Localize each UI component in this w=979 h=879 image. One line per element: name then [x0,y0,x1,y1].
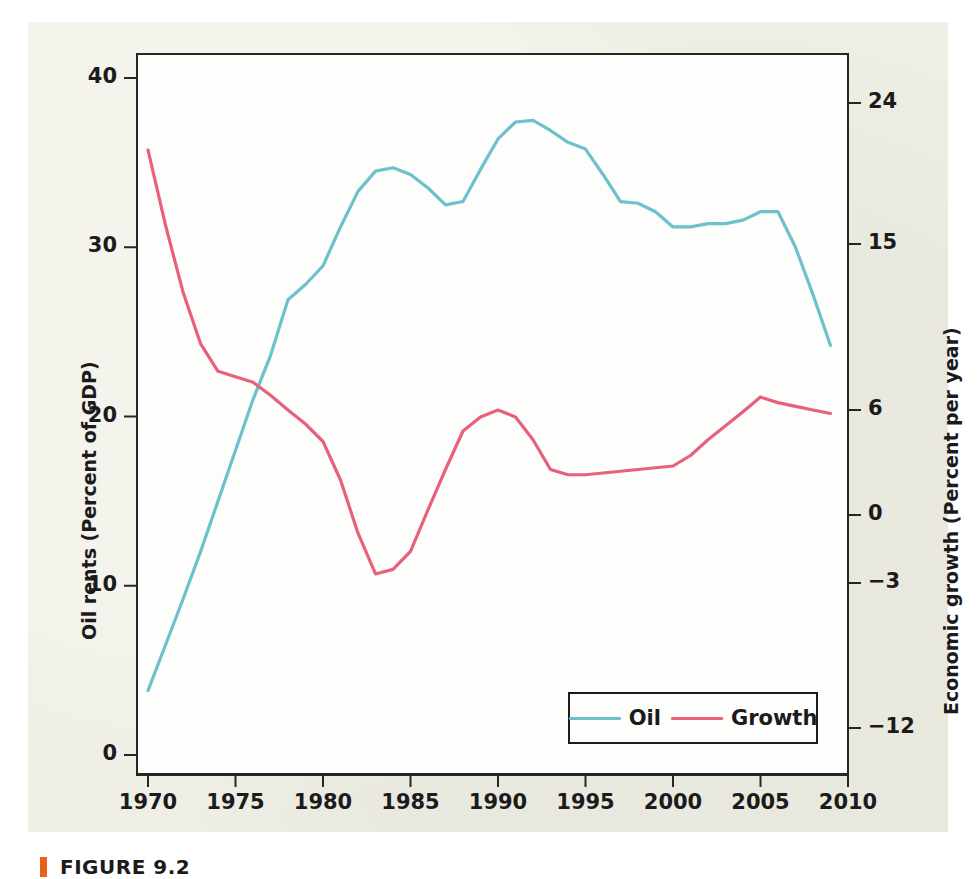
y-tick-label-right: 24 [868,89,897,113]
x-tick-label: 1975 [203,790,269,814]
y-tick-label-right: −12 [868,714,915,738]
y-tick-label-right: 15 [868,230,897,254]
y-tick-label-right: 6 [868,396,883,420]
legend-entry-oil[interactable]: Oil [569,706,661,730]
y-tick-label-left: 40 [55,64,117,88]
legend-label-growth: Growth [731,706,817,730]
y-tick-label-right: 0 [868,501,883,525]
figure-caption-rule [40,857,47,877]
legend-swatch-growth [671,717,723,720]
x-tick-label: 2010 [815,790,881,814]
legend-entry-growth[interactable]: Growth [671,706,817,730]
chart-legend[interactable]: Oil Growth [568,692,818,744]
legend-swatch-oil [569,717,621,720]
y-axis-title-left: Oil rents (Percent of GDP) [78,361,100,640]
series-line-growth [148,150,831,574]
y-axis-ticks-right [849,103,861,728]
y-axis-title-right: Economic growth (Percent per year) [940,327,962,715]
y-tick-label-left: 30 [55,233,117,257]
y-tick-label-left: 0 [55,741,117,765]
x-tick-label: 2000 [640,790,706,814]
x-tick-label: 1985 [378,790,444,814]
x-tick-label: 1990 [465,790,531,814]
x-tick-label: 1970 [115,790,181,814]
figure-caption-label: FIGURE 9.2 [60,855,190,879]
series-line-oil [148,120,831,690]
y-axis-ticks-left [124,78,136,755]
legend-label-oil: Oil [629,706,661,730]
x-tick-label: 2005 [728,790,794,814]
x-tick-label: 1980 [290,790,356,814]
x-axis-ticks [136,775,849,787]
y-tick-label-right: −3 [868,569,900,593]
x-tick-label: 1995 [553,790,619,814]
